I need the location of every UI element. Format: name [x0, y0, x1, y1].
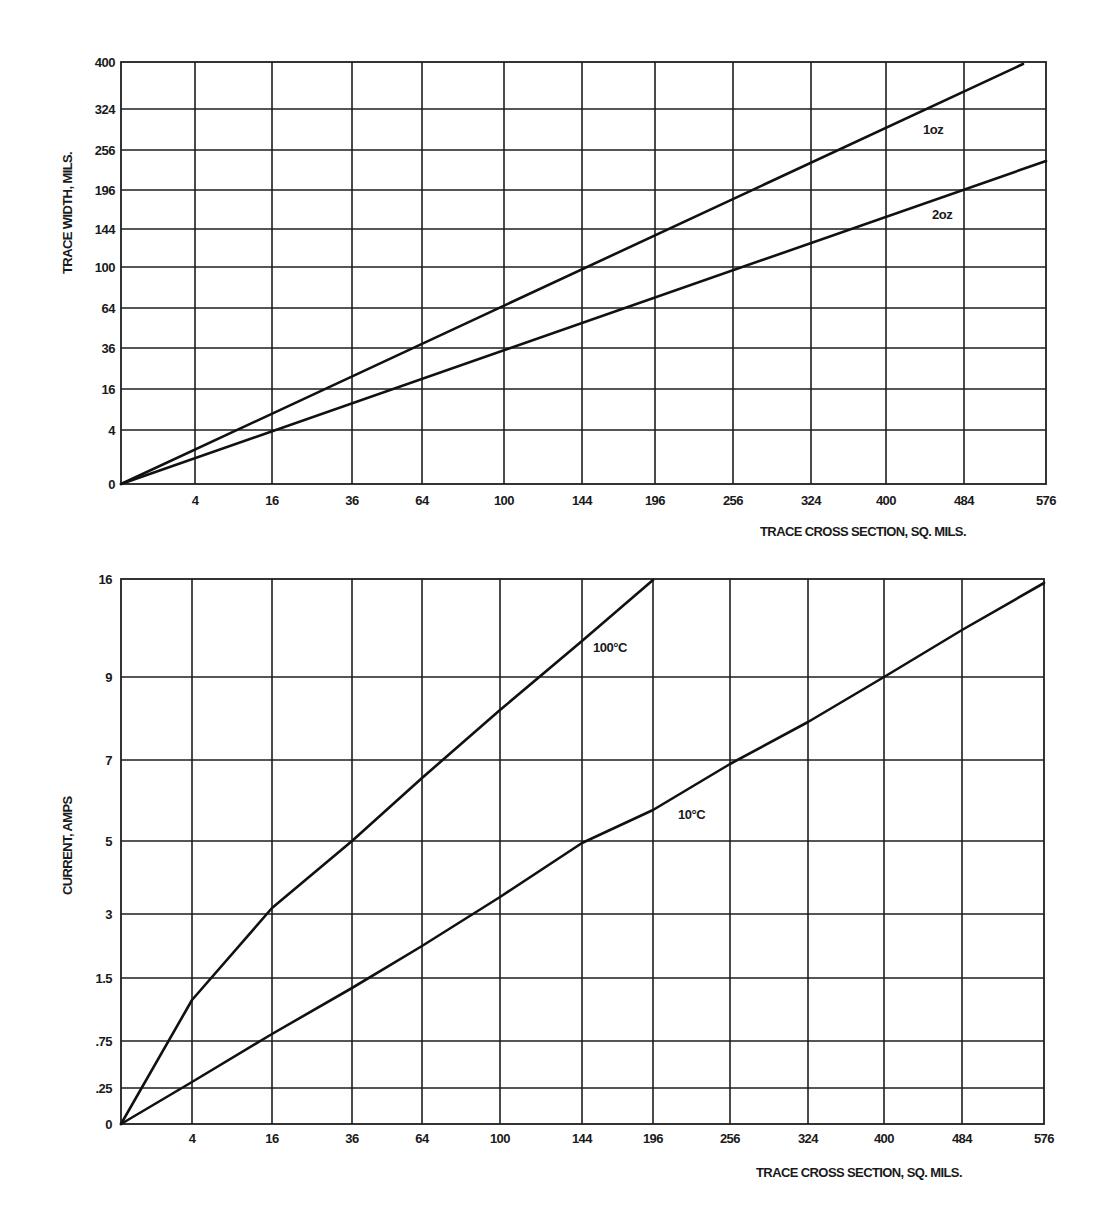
y-tick: 1.5 — [72, 971, 112, 986]
x-tick: 484 — [937, 1131, 987, 1146]
y-tick: .75 — [72, 1034, 112, 1049]
y-tick: .25 — [72, 1081, 112, 1096]
x-tick: 36 — [327, 1131, 377, 1146]
x-tick: 100 — [475, 1131, 525, 1146]
x-tick: 576 — [1019, 1131, 1069, 1146]
x-tick: 324 — [783, 1131, 833, 1146]
current-chart: 16 9 7 5 3 1.5 .75 .25 0 4 16 36 64 100 … — [0, 0, 1108, 1230]
series-label-10c: 10°C — [678, 807, 705, 822]
x-tick: 256 — [705, 1131, 755, 1146]
x-tick: 144 — [557, 1131, 607, 1146]
series-label-100c: 100°C — [593, 640, 627, 655]
y-tick: 3 — [72, 907, 112, 922]
x-tick: 4 — [167, 1131, 217, 1146]
y-tick: 9 — [72, 670, 112, 685]
current-plot — [0, 0, 1108, 1230]
y-tick: 5 — [72, 834, 112, 849]
x-axis-label: TRACE CROSS SECTION, SQ. MILS. — [756, 1165, 962, 1180]
y-axis-label: CURRENT, AMPS — [60, 796, 75, 895]
x-tick: 196 — [628, 1131, 678, 1146]
x-tick: 400 — [859, 1131, 909, 1146]
series-100c-line — [121, 580, 653, 1124]
x-tick: 64 — [397, 1131, 447, 1146]
x-tick: 16 — [247, 1131, 297, 1146]
y-tick: 16 — [72, 572, 112, 587]
y-tick: 7 — [72, 753, 112, 768]
origin-tick: 0 — [72, 1117, 112, 1132]
